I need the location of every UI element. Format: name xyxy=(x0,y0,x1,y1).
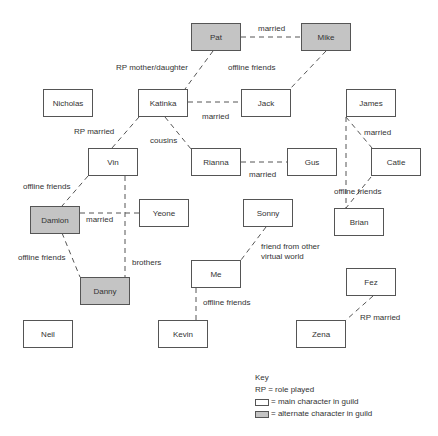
edge-label-damion-danny: offline friends xyxy=(18,253,65,263)
node-neil: Neil xyxy=(23,320,73,348)
node-pat: Pat xyxy=(191,23,241,51)
edge-label-katinka-vin: RP married xyxy=(74,127,114,137)
node-sonny: Sonny xyxy=(243,199,293,227)
edge-label-fez-zena: RP married xyxy=(360,313,400,323)
edge-label-catie-brian: offline friends xyxy=(334,187,381,197)
node-zena: Zena xyxy=(296,320,346,348)
node-vin: Vin xyxy=(88,148,138,176)
edge-label-katinka-jack: married xyxy=(202,112,229,122)
node-kevin: Kevin xyxy=(158,320,208,348)
edge-label-mike-jack: offline friends xyxy=(228,63,275,73)
legend: Key RP = role played = main character in… xyxy=(255,372,372,420)
edge-label-pat-katinka: RP mother/daughter xyxy=(116,63,188,73)
node-yeone: Yeone xyxy=(139,199,189,227)
node-danny: Danny xyxy=(80,277,130,305)
legend-alternate-row: = alternate character in guild xyxy=(255,408,372,420)
alternate-character-swatch-icon xyxy=(255,411,269,418)
legend-main-row: = main character in guild xyxy=(255,396,372,408)
edge-pat-katinka xyxy=(185,51,213,89)
node-jack: Jack xyxy=(241,89,291,117)
node-fez: Fez xyxy=(346,268,396,296)
edge-label-me-kevin: offline friends xyxy=(203,298,250,308)
legend-alternate-label: = alternate character in guild xyxy=(271,408,372,420)
edge-katinka-vin xyxy=(112,117,139,148)
node-me: Me xyxy=(191,260,241,288)
edge-label-damion-yeone: married xyxy=(86,215,113,225)
node-catie: Catie xyxy=(371,148,421,176)
main-character-swatch-icon xyxy=(255,399,269,406)
legend-main-label: = main character in guild xyxy=(271,396,358,408)
edge-mike-jack xyxy=(290,51,326,89)
node-damion: Damion xyxy=(30,206,80,234)
node-james: James xyxy=(346,89,396,117)
node-nicholas: Nicholas xyxy=(43,89,93,117)
legend-rp-definition: RP = role played xyxy=(255,384,372,396)
edge-label-james-catie: married xyxy=(364,128,391,138)
edge-label-sonny-me: friend from other virtual world xyxy=(261,242,321,262)
edge-label-katinka-rianna: cousins xyxy=(150,136,177,146)
node-gus: Gus xyxy=(287,148,337,176)
node-rianna: Rianna xyxy=(191,148,241,176)
relationship-diagram: PatMikeNicholasKatinkaJackJamesVinRianna… xyxy=(0,0,438,436)
edge-label-pat-mike: married xyxy=(258,24,285,34)
node-katinka: Katinka xyxy=(138,89,188,117)
edge-label-vin-damion: offline friends xyxy=(23,182,70,192)
node-brian: Brian xyxy=(334,208,384,236)
edge-label-vin-danny: brothers xyxy=(132,258,161,268)
node-mike: Mike xyxy=(301,23,351,51)
edge-label-rianna-gus: married xyxy=(249,170,276,180)
legend-title: Key xyxy=(255,372,372,384)
